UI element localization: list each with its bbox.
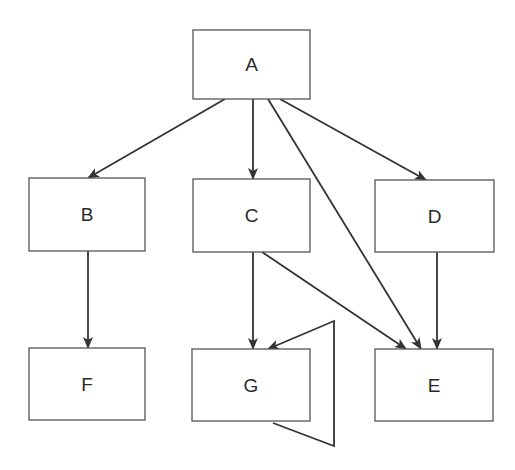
edge-a-to-b [88,99,225,178]
node-e: E [375,349,493,421]
dependency-graph: ABCDFGE [0,0,515,470]
node-label: D [428,206,442,227]
node-g: G [192,349,310,421]
node-c: C [193,179,310,252]
nodes-layer: ABCDFGE [29,30,494,421]
node-a: A [193,30,310,99]
node-label: F [81,374,93,395]
node-label: G [244,375,259,396]
node-label: B [81,204,94,225]
edge-a-to-d [280,99,426,180]
graph-svg: ABCDFGE [0,0,515,470]
node-label: C [245,205,259,226]
node-label: E [428,375,441,396]
node-d: D [375,180,494,252]
node-label: A [245,54,258,75]
node-b: B [29,178,145,251]
node-f: F [29,348,145,420]
